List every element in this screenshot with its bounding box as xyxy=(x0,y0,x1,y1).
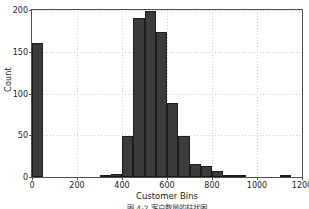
x-tick-label: 0 xyxy=(29,181,34,190)
x-tick-mark xyxy=(167,177,168,180)
histogram-bar xyxy=(156,32,167,177)
y-tick-mark xyxy=(29,135,32,136)
x-tick-mark xyxy=(302,177,303,180)
histogram-bar xyxy=(235,175,246,177)
histogram-bar xyxy=(145,11,156,177)
figure-caption: 图 4-2 客户数量的柱状图 xyxy=(31,202,303,209)
histogram-figure: Count 050100150200020040060080010001200 … xyxy=(0,0,309,209)
histogram-bar xyxy=(100,175,111,177)
x-tick-mark xyxy=(257,177,258,180)
x-tick-label: 400 xyxy=(114,181,129,190)
histogram-bar xyxy=(32,43,43,177)
y-axis-title: Count xyxy=(4,55,13,105)
histogram-bar xyxy=(111,174,122,177)
histogram-bar xyxy=(280,175,291,178)
plot-area: 050100150200020040060080010001200 xyxy=(31,9,303,178)
histogram-bar xyxy=(133,18,144,177)
histogram-bar xyxy=(178,136,189,177)
y-tick-mark xyxy=(29,10,32,11)
histogram-bar xyxy=(190,164,201,177)
histogram-bar xyxy=(201,166,212,177)
y-tick-mark xyxy=(29,94,32,95)
x-tick-mark xyxy=(212,177,213,180)
x-axis-title: Customer Bins xyxy=(31,191,303,201)
y-tick-label: 150 xyxy=(13,47,28,56)
histogram-bar xyxy=(212,171,223,177)
y-tick-label: 0 xyxy=(23,173,28,182)
histogram-bars xyxy=(32,10,302,177)
x-tick-label: 600 xyxy=(159,181,174,190)
x-tick-mark xyxy=(122,177,123,180)
x-tick-mark xyxy=(32,177,33,180)
histogram-bar xyxy=(167,103,178,177)
y-tick-label: 50 xyxy=(18,131,28,140)
y-tick-label: 100 xyxy=(13,89,28,98)
x-tick-mark xyxy=(77,177,78,180)
histogram-bar xyxy=(122,136,133,177)
histogram-bar xyxy=(223,175,234,177)
y-tick-mark xyxy=(29,52,32,53)
x-tick-label: 1000 xyxy=(247,181,267,190)
x-tick-label: 800 xyxy=(204,181,219,190)
x-tick-label: 200 xyxy=(69,181,84,190)
x-tick-label: 1200 xyxy=(292,181,309,190)
y-tick-label: 200 xyxy=(13,6,28,15)
